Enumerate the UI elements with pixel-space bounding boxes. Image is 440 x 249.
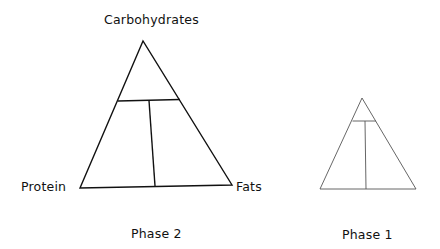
- phase1-vertical-divider: [365, 121, 366, 189]
- carbohydrates-label: Carbohydrates: [104, 12, 199, 27]
- phase1-triangle: [320, 98, 416, 189]
- phase2-vertical-divider: [149, 101, 155, 187]
- phase2-caption: Phase 2: [131, 226, 182, 241]
- phase1-caption: Phase 1: [342, 227, 393, 242]
- phase2-outline: [80, 41, 232, 188]
- phase2-triangle: [80, 41, 232, 188]
- fats-label: Fats: [236, 179, 262, 194]
- protein-label: Protein: [21, 179, 66, 194]
- diagram-canvas: [0, 0, 440, 249]
- phase1-outline: [320, 98, 416, 189]
